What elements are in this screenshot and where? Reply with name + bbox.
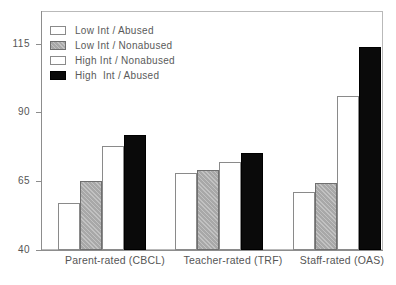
- y-tick-label-65: 65: [0, 176, 30, 186]
- legend-label: Low Int / Nonabused: [75, 40, 172, 51]
- legend-swatch-icon: [50, 56, 66, 65]
- legend-label: Low Int / Abused: [75, 25, 154, 36]
- bar: [175, 173, 197, 250]
- y-tick-label-40: 40: [0, 245, 30, 255]
- y-tick-label-90: 90: [0, 107, 30, 117]
- bar: [337, 96, 359, 250]
- legend-swatch-icon: [50, 26, 66, 35]
- legend: Low Int / Abused Low Int / Nonabused Hig…: [50, 24, 175, 84]
- bar: [219, 162, 241, 250]
- bar: [58, 203, 80, 250]
- bar: [102, 146, 124, 250]
- x-label-staff-rated: Staff-rated (OAS): [272, 254, 396, 266]
- legend-label: High Int / Abused: [75, 70, 159, 81]
- legend-item-low-int-nonabused: Low Int / Nonabused: [50, 39, 175, 52]
- legend-item-high-int-nonabused: High Int / Nonabused: [50, 54, 175, 67]
- bar: [197, 170, 219, 250]
- legend-item-low-int-abused: Low Int / Abused: [50, 24, 175, 37]
- x-axis-line: [41, 250, 383, 251]
- bar: [293, 192, 315, 250]
- bar: [241, 153, 263, 251]
- legend-swatch-icon: [50, 71, 66, 80]
- legend-label: High Int / Nonabused: [75, 55, 175, 66]
- y-tick-40: [36, 250, 42, 251]
- bar: [124, 135, 146, 250]
- bar: [315, 183, 337, 250]
- legend-swatch-icon: [50, 41, 66, 50]
- y-tick-label-115: 115: [0, 39, 30, 49]
- legend-item-high-int-abused: High Int / Abused: [50, 69, 175, 82]
- bar: [359, 47, 381, 250]
- bar: [80, 181, 102, 250]
- bar-chart: 115 90 65 40 Parent-rated (CBCL) Teacher…: [0, 0, 396, 285]
